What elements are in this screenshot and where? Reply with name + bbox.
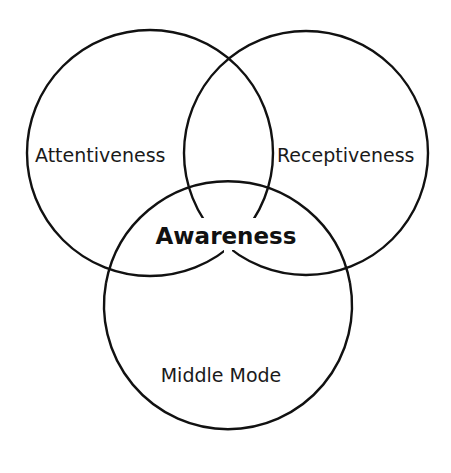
receptiveness-label: Receptiveness xyxy=(277,144,414,166)
venn-diagram: Attentiveness Receptiveness Awareness Mi… xyxy=(0,0,451,473)
awareness-label: Awareness xyxy=(156,223,297,249)
middle-mode-circle xyxy=(104,283,352,429)
middle-mode-label: Middle Mode xyxy=(161,364,282,386)
attentiveness-label: Attentiveness xyxy=(35,144,166,166)
